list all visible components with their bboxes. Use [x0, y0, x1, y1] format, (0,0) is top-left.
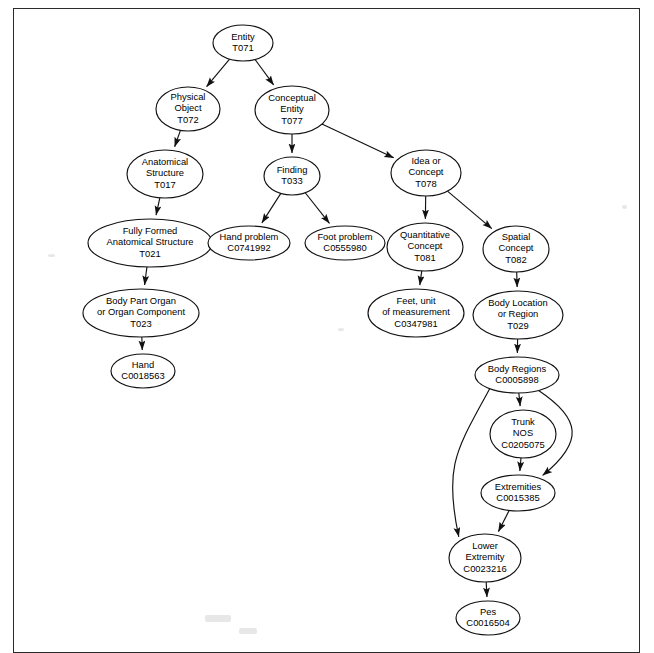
node-physical_object[interactable]: PhysicalObjectT072 [156, 87, 220, 131]
node-label-line: Trunk [511, 416, 535, 427]
edge-trunk_nos-to-extremities [520, 458, 521, 471]
node-body_part_organ[interactable]: Body Part Organor Organ ComponentT023 [83, 289, 199, 337]
node-label-line: C0023216 [463, 563, 506, 574]
edge-finding-to-foot_problem [305, 193, 329, 224]
scan-artifact [338, 328, 344, 331]
node-label-line: T082 [505, 254, 526, 265]
node-hand_problem[interactable]: Hand problemC0741992 [208, 226, 290, 260]
node-label-line: Concept [408, 240, 443, 251]
node-anatomical_structure[interactable]: AnatomicalStructureT017 [127, 150, 203, 198]
node-body_regions[interactable]: Body RegionsC0005898 [475, 357, 559, 393]
node-label-line: Concept [499, 242, 534, 253]
node-finding[interactable]: FindingT033 [264, 157, 320, 195]
node-label-line: Concept [409, 166, 444, 177]
scan-artifact [205, 615, 231, 622]
node-label-line: Spatial [502, 231, 531, 242]
node-label-line: T017 [154, 179, 175, 190]
node-label-line: C0741992 [227, 242, 270, 253]
node-quantitative_concept[interactable]: QuantitativeConceptT081 [387, 223, 463, 271]
node-spatial_concept[interactable]: SpatialConceptT082 [483, 226, 549, 272]
node-label-line: T029 [507, 320, 528, 331]
node-label-line: Entity [231, 31, 255, 42]
node-label-line: C0555980 [323, 242, 366, 253]
node-label-line: T021 [139, 248, 160, 259]
node-label-line: C0005898 [495, 374, 538, 385]
node-label-line: Quantitative [400, 229, 450, 240]
node-body_location[interactable]: Body Locationor RegionT029 [473, 291, 563, 339]
node-label-line: Hand [132, 359, 154, 370]
edge-idea_or_concept-to-spatial_concept [447, 191, 491, 228]
node-conceptual_entity[interactable]: ConceptualEntityT077 [255, 86, 329, 134]
node-label-line: C0015385 [496, 492, 539, 503]
edge-finding-to-hand_problem [262, 193, 281, 222]
node-label-line: Entity [280, 103, 304, 114]
node-label-line: Fully Formed [123, 225, 178, 236]
node-label-line: T078 [415, 178, 436, 189]
edge-conceptual_entity-to-idea_or_concept [322, 124, 394, 158]
node-label-line: T072 [177, 114, 198, 125]
node-label-line: of measurement [382, 306, 450, 317]
node-layer: EntityT071PhysicalObjectT072ConceptualEn… [83, 25, 563, 635]
edge-entity-to-conceptual_entity [255, 59, 274, 84]
node-label-line: C0018563 [121, 370, 164, 381]
node-label-line: or Region [498, 308, 539, 319]
node-label-line: Foot problem [317, 231, 372, 242]
node-label-line: Anatomical [142, 156, 188, 167]
node-label-line: T033 [281, 175, 302, 186]
node-foot_problem[interactable]: Foot problemC0555980 [305, 226, 385, 260]
node-label-line: Anatomical Structure [106, 236, 193, 247]
node-label-line: Body Location [488, 297, 547, 308]
edge-anatomical_structure-to-fully_formed [156, 198, 160, 215]
edge-body_regions-to-lower_extremity [452, 389, 489, 537]
node-label-line: Finding [277, 164, 308, 175]
node-label-line: Extremities [495, 481, 542, 492]
node-extremities[interactable]: ExtremitiesC0015385 [481, 475, 555, 511]
node-label-line: T071 [232, 42, 253, 53]
edge-quantitative_concept-to-feet_unit [420, 271, 422, 285]
edge-entity-to-physical_object [207, 59, 230, 87]
edge-lower_extremity-to-pes [486, 582, 487, 597]
node-label-line: Lower [472, 540, 498, 551]
node-lower_extremity[interactable]: LowerExtremityC0023216 [449, 534, 521, 582]
node-feet_unit[interactable]: Feet, unitof measurementC0347981 [368, 289, 464, 337]
node-label-line: Pes [480, 606, 496, 617]
node-label-line: T081 [414, 252, 435, 263]
scan-artifact [622, 205, 627, 209]
node-trunk_nos[interactable]: TrunkNOSC0205075 [490, 410, 556, 458]
node-label-line: Conceptual [268, 92, 315, 103]
edge-extremities-to-lower_extremity [498, 510, 509, 531]
node-label-line: Idea or [411, 155, 440, 166]
node-label-line: or Organ Component [97, 306, 185, 317]
scan-artifact [48, 254, 55, 257]
node-label-line: Feet, unit [396, 295, 435, 306]
edge-physical_object-to-anatomical_structure [175, 130, 181, 146]
node-idea_or_concept[interactable]: Idea orConceptT078 [391, 150, 461, 196]
scan-artifact [239, 628, 257, 634]
edge-fully_formed-to-body_part_organ [145, 267, 147, 285]
node-label-line: T023 [130, 318, 151, 329]
edge-body_regions-to-trunk_nos [519, 393, 520, 406]
node-label-line: Extremity [465, 551, 504, 562]
node-label-line: C0016504 [466, 617, 509, 628]
node-label-line: C0205075 [501, 439, 544, 450]
node-label-line: Body Regions [488, 363, 547, 374]
node-entity[interactable]: EntityT071 [213, 25, 273, 61]
node-label-line: Object [174, 102, 201, 113]
node-fully_formed[interactable]: Fully FormedAnatomical StructureT021 [88, 219, 212, 267]
node-label-line: Structure [146, 167, 184, 178]
node-label-line: Body Part Organ [106, 295, 176, 306]
node-label-line: Hand problem [220, 231, 279, 242]
node-pes[interactable]: PesC0016504 [456, 601, 520, 635]
node-label-line: NOS [513, 427, 533, 438]
node-label-line: Physical [171, 91, 206, 102]
node-label-line: T077 [281, 115, 302, 126]
node-label-line: C0347981 [394, 318, 437, 329]
node-hand[interactable]: HandC0018563 [111, 354, 175, 388]
